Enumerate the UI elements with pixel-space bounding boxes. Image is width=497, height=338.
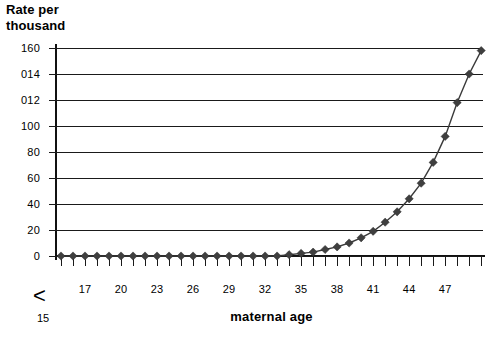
data-point-marker bbox=[93, 252, 101, 260]
data-point-marker bbox=[225, 252, 233, 260]
data-point-marker bbox=[261, 252, 269, 260]
data-point-marker bbox=[105, 252, 113, 260]
data-point-marker bbox=[117, 252, 125, 260]
data-point-marker bbox=[453, 99, 461, 107]
data-point-marker bbox=[81, 252, 89, 260]
data-point-marker bbox=[345, 239, 353, 247]
series-line bbox=[61, 51, 481, 256]
series-markers bbox=[57, 47, 485, 261]
data-point-marker bbox=[237, 252, 245, 260]
data-point-marker bbox=[333, 243, 341, 251]
data-point-marker bbox=[357, 234, 365, 242]
data-point-marker bbox=[129, 252, 137, 260]
data-series-group bbox=[0, 0, 497, 338]
data-point-marker bbox=[141, 252, 149, 260]
data-point-marker bbox=[429, 158, 437, 166]
data-point-marker bbox=[465, 70, 473, 78]
data-point-marker bbox=[441, 132, 449, 140]
data-point-marker bbox=[57, 252, 65, 260]
data-point-marker bbox=[177, 252, 185, 260]
data-point-marker bbox=[273, 252, 281, 260]
data-point-marker bbox=[285, 251, 293, 259]
data-point-marker bbox=[69, 252, 77, 260]
data-point-marker bbox=[309, 248, 317, 256]
data-point-marker bbox=[321, 245, 329, 253]
data-point-marker bbox=[165, 252, 173, 260]
data-point-marker bbox=[213, 252, 221, 260]
chart-container: Rate perthousand 020406080100012014160 1… bbox=[0, 0, 497, 338]
data-point-marker bbox=[249, 252, 257, 260]
data-point-marker bbox=[153, 252, 161, 260]
data-point-marker bbox=[297, 249, 305, 257]
data-point-marker bbox=[477, 47, 485, 55]
data-point-marker bbox=[201, 252, 209, 260]
data-point-marker bbox=[189, 252, 197, 260]
